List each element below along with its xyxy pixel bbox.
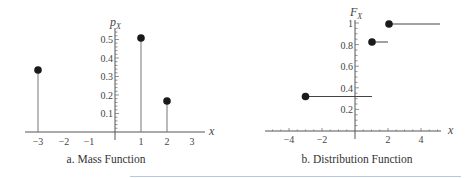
left-y-tick-0.5: 0.5 [101,34,114,45]
right-y-tick-0.6: 0.6 [341,61,354,72]
right-y-tick-0.4: 0.4 [341,83,354,94]
right-y-minor-ticks [355,23,359,126]
left-x-tick-3: 3 [190,136,195,147]
left-y-axis-label: pX [109,15,122,31]
right-y-tick-1: 1 [348,18,353,29]
left-x-tick--2: −2 [59,136,70,147]
left-x-tick-1: 1 [139,136,144,147]
left-x-tick-2: 2 [165,136,170,147]
left-caption: a. Mass Function [67,153,146,165]
stem-x-neg3 [34,66,42,132]
right-y-axis-label: FX [349,5,363,21]
left-y-tick-0.2: 0.2 [101,90,114,101]
left-x-axis-label: x [208,124,215,138]
left-x-tick--1: −1 [84,136,95,147]
right-x-tick--2: −2 [317,134,328,145]
right-x-tick-4: 4 [419,134,424,145]
step-segment-3 [385,20,440,28]
right-y-tick-0.8: 0.8 [341,40,354,51]
figure: 0.1 0.2 0.3 0.4 0.5 pX x −3 −2 −1 1 2 3 [0,0,475,178]
right-caption: b. Distribution Function [302,153,413,165]
left-x-tick--3: −3 [33,136,44,147]
left-y-minor-ticks [115,32,119,128]
left-y-tick-0.3: 0.3 [101,71,114,82]
step-segment-2 [368,38,388,46]
mass-function-chart: 0.1 0.2 0.3 0.4 0.5 pX x −3 −2 −1 1 2 3 [25,15,215,165]
left-y-tick-0.1: 0.1 [101,108,114,119]
stem-x-1 [137,34,145,132]
distribution-function-chart: 0.2 0.4 0.6 0.8 1 FX x −4 −2 2 4 b. Dist… [265,5,454,165]
right-y-tick-0.2: 0.2 [341,104,354,115]
right-x-tick-2: 2 [386,134,391,145]
right-x-axis-label: x [447,123,454,137]
right-x-tick--4: −4 [284,134,295,145]
stem-x-2 [163,97,171,132]
left-y-tick-0.4: 0.4 [101,53,114,64]
step-segment-1 [302,93,372,101]
